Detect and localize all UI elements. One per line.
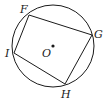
label-i: I — [4, 47, 10, 60]
quadrilateral-fghi — [14, 15, 92, 84]
label-f: F — [19, 3, 28, 16]
circle-diagram: F G H I O — [0, 0, 106, 101]
center-point — [51, 44, 54, 47]
label-h: H — [60, 88, 71, 101]
label-o: O — [42, 47, 51, 60]
label-g: G — [94, 28, 103, 41]
